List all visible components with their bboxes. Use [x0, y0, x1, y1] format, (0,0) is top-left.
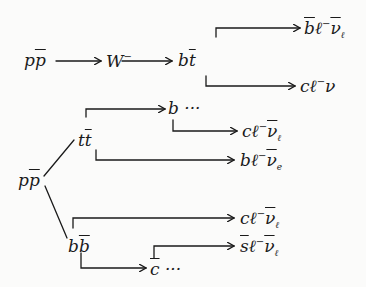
node-sbar-l-nubar: sℓ−νℓ	[240, 237, 278, 258]
line-ppbar-to-bbbar	[45, 186, 67, 238]
arrow-ttbar-to-b-l-nubar	[96, 150, 234, 160]
node-b-tbar: bt	[178, 52, 196, 69]
node-bbar-l-nubar: bℓ−νℓ	[304, 19, 344, 40]
node-b-l-nubar: bℓ−νe	[240, 151, 282, 172]
arrow-ttbar-to-b	[86, 109, 165, 117]
arrow-bbbar-to-cbar	[81, 253, 146, 268]
line-ppbar-to-ttbar	[44, 140, 74, 176]
arrow-btbar-to-bbar-l-nubar	[216, 28, 300, 37]
decay-diagram: pp W− bt bℓ−νℓ cℓ−ν pp tt b ··· cℓ−νℓ bℓ…	[0, 0, 366, 287]
node-t-tbar: tt	[78, 132, 92, 149]
node-c-l-nubar-2: cℓ−νℓ	[240, 209, 279, 230]
node-p-pbar-top: pp	[24, 52, 46, 69]
diagram-lines	[0, 0, 366, 287]
arrow-cbar-to-sbar-l-nubar	[154, 246, 234, 258]
node-c-l-nu: cℓ−ν	[300, 77, 335, 95]
node-cbar-dots: c ···	[150, 261, 181, 278]
node-p-pbar-bottom: pp	[18, 172, 40, 189]
arrow-b-to-c-l-nubar	[173, 120, 237, 131]
node-w-minus: W−	[106, 52, 132, 70]
node-c-l-nubar-1: cℓ−νℓ	[242, 122, 281, 143]
arrow-btbar-to-c-l-nu	[206, 76, 295, 86]
node-b-dots: b ···	[168, 100, 201, 117]
arrow-bbbar-to-c-l-nubar	[73, 218, 234, 228]
node-b-bbar: bb	[68, 238, 90, 255]
